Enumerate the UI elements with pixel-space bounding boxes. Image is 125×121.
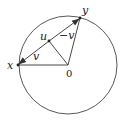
circle-vector-diagram: x y u 0 v −v: [0, 0, 125, 121]
segment-O-u: [49, 41, 68, 65]
point-x: [17, 64, 20, 67]
point-u: [48, 40, 51, 43]
label-x: x: [7, 59, 14, 72]
diagram-canvas: x y u 0 v −v: [0, 0, 125, 121]
label-y: y: [81, 4, 89, 17]
label-origin: 0: [66, 68, 72, 79]
label-v: v: [33, 50, 40, 63]
label-minus-v: −v: [59, 29, 75, 42]
point-y: [79, 17, 82, 20]
label-u: u: [40, 30, 47, 43]
